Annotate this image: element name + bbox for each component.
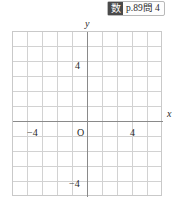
origin-label: O	[77, 128, 84, 138]
page-root: 数 p.89問 4 y x −4 O 4 4 −4	[0, 0, 181, 203]
y-tick-label-negative-4: −4	[69, 179, 80, 189]
y-axis-caption: y	[85, 19, 89, 29]
x-axis-line	[13, 121, 163, 122]
x-axis-caption: x	[167, 109, 171, 119]
y-axis-line	[87, 32, 88, 197]
math-subject-chip-icon: 数	[108, 2, 123, 15]
x-tick-label-positive-4: 4	[130, 128, 135, 138]
reference-badge[interactable]: 数 p.89問 4	[107, 1, 165, 16]
y-tick-label-positive-4: 4	[75, 61, 80, 71]
coordinate-graph: y x −4 O 4 4 −4	[0, 18, 181, 203]
x-tick-label-negative-4: −4	[27, 128, 38, 138]
grid-plot-area[interactable]: −4 O 4 4 −4	[12, 31, 162, 196]
reference-badge-label: p.89問 4	[126, 2, 160, 15]
